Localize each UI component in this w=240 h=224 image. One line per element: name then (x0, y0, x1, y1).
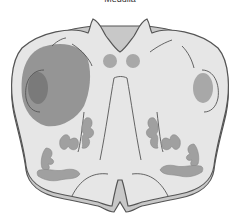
medulla-diagram (0, 0, 240, 224)
right-central-nucleus (126, 54, 140, 68)
left-olive-nucleus (28, 72, 48, 104)
left-central-nucleus (103, 54, 117, 68)
right-olive-nucleus (193, 73, 213, 103)
